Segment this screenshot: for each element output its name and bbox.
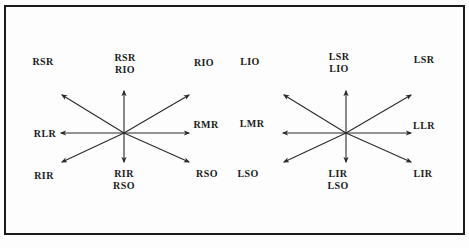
- label-lmr: LMR: [240, 118, 265, 130]
- label-rsr-rio: RSR RIO: [114, 52, 135, 76]
- label-rsr-rio-line1: RSR: [114, 52, 135, 64]
- label-rmr: RMR: [193, 119, 218, 131]
- label-rlr: RLR: [34, 128, 56, 140]
- label-lio: LIO: [240, 56, 260, 68]
- label-lir: LIR: [414, 168, 433, 180]
- label-rso: RSO: [196, 168, 218, 180]
- label-lsr-lio-line1: LSR: [329, 51, 350, 63]
- label-llr: LLR: [413, 120, 435, 132]
- label-lso: LSO: [237, 168, 258, 180]
- label-rir: RIR: [34, 170, 54, 182]
- label-rir-rso-line2: RSO: [113, 180, 135, 192]
- gaze-diagram: RSR RSR RIO RIO RLR RMR RIR RIR RSO RSO …: [0, 0, 469, 248]
- label-lir-lso: LIR LSO: [327, 168, 348, 192]
- label-rio: RIO: [194, 57, 214, 69]
- label-rir-rso-line1: RIR: [113, 168, 135, 180]
- label-lsr-lio: LSR LIO: [329, 51, 350, 75]
- label-rir-rso: RIR RSO: [113, 168, 135, 192]
- label-lsr: LSR: [414, 54, 435, 66]
- figure-border: [4, 5, 465, 235]
- label-lsr-lio-line2: LIO: [329, 63, 350, 75]
- label-rsr-rio-line2: RIO: [114, 64, 135, 76]
- label-lir-lso-line2: LSO: [327, 180, 348, 192]
- label-rsr: RSR: [32, 56, 53, 68]
- label-lir-lso-line1: LIR: [327, 168, 348, 180]
